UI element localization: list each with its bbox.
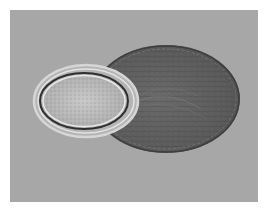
micrograph-frame <box>10 10 258 202</box>
micrograph-image <box>10 10 258 202</box>
egg <box>34 65 138 137</box>
